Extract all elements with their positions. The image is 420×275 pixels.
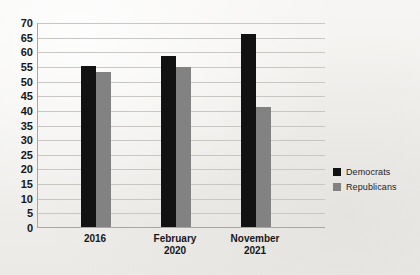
y-axis-tick-label: 55 xyxy=(3,61,33,72)
x-axis-tick-label: 2016 xyxy=(50,233,140,245)
y-axis-tick-label: 30 xyxy=(3,135,33,146)
y-axis-tick-label: 5 xyxy=(3,208,33,219)
x-axis-tick-label: November2021 xyxy=(210,233,300,256)
y-axis-tick-label: 20 xyxy=(3,164,33,175)
bar-republicans xyxy=(96,72,111,227)
bar-democrats xyxy=(241,34,256,227)
legend-label: Republicans xyxy=(346,182,397,192)
legend-label: Democrats xyxy=(346,167,390,177)
y-axis-tick-label: 50 xyxy=(3,76,33,87)
bar-group xyxy=(161,23,191,227)
y-axis-tick-label: 35 xyxy=(3,120,33,131)
bar-republicans xyxy=(256,107,271,227)
bar-democrats xyxy=(161,56,176,227)
y-axis-tick-label: 15 xyxy=(3,179,33,190)
y-axis-tick-label: 40 xyxy=(3,105,33,116)
chart-legend: DemocratsRepublicans xyxy=(333,167,397,197)
bar-democrats xyxy=(81,66,96,227)
y-axis-tick-label: 60 xyxy=(3,47,33,58)
bar-group xyxy=(241,23,271,227)
y-axis-tick-label: 45 xyxy=(3,91,33,102)
legend-item: Republicans xyxy=(333,182,397,192)
legend-swatch-icon xyxy=(333,168,341,176)
y-axis-tick-label: 65 xyxy=(3,32,33,43)
bar-republicans xyxy=(176,67,191,227)
y-axis: 7065605550454035302520151050 xyxy=(0,23,33,228)
plot-area xyxy=(37,23,325,228)
x-axis-tick-label: February2020 xyxy=(130,233,220,256)
y-axis-tick-label: 0 xyxy=(3,223,33,234)
y-axis-tick-label: 25 xyxy=(3,149,33,160)
bar-chart: 7065605550454035302520151050 2016Februar… xyxy=(0,0,420,275)
y-axis-tick-label: 70 xyxy=(3,18,33,29)
legend-swatch-icon xyxy=(333,183,341,191)
y-axis-tick-label: 10 xyxy=(3,193,33,204)
legend-item: Democrats xyxy=(333,167,397,177)
bar-group xyxy=(81,23,111,227)
